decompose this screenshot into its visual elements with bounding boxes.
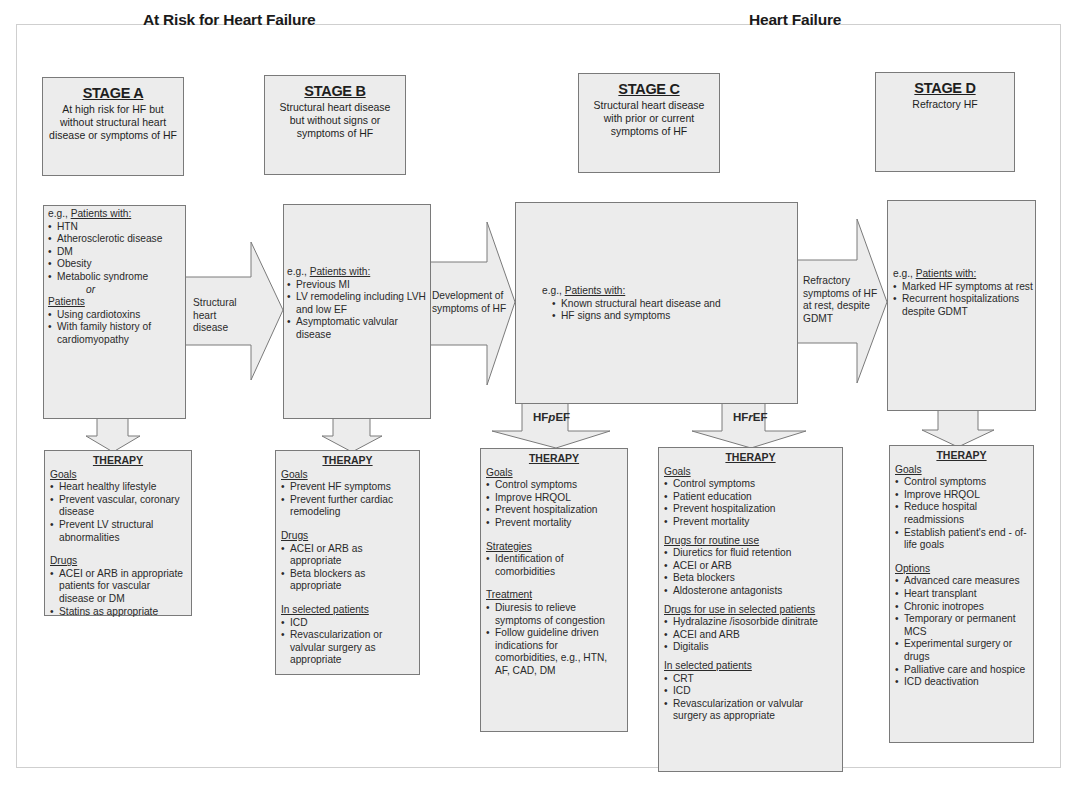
list-item: Heart healthy lifestyle bbox=[50, 481, 186, 494]
list-item: Statins as appropriate bbox=[50, 606, 186, 619]
eg-prefix: e.g., bbox=[287, 266, 310, 277]
list-item: Reduce hospital readmissions bbox=[895, 501, 1028, 526]
stage-d-title: STAGE D bbox=[876, 80, 1014, 97]
list-item: Diuretics for fluid retention bbox=[664, 547, 837, 560]
stage-d-box: STAGE D Refractory HF bbox=[875, 72, 1015, 172]
group-title-at-risk: At Risk for Heart Failure bbox=[143, 11, 315, 29]
list-item: Prevent further cardiac remodeling bbox=[281, 494, 414, 519]
list-item: Patient education bbox=[664, 491, 837, 504]
strategies-label: Strategies bbox=[486, 541, 622, 554]
hfref-label: HFrEF bbox=[733, 411, 768, 423]
list-item: With family history of cardiomyopathy bbox=[48, 321, 186, 346]
stage-c-title: STAGE C bbox=[579, 81, 719, 98]
therapy-title: THERAPY bbox=[895, 449, 1028, 462]
selected-patients-label: In selected patients bbox=[281, 604, 414, 617]
stage-d-description: Refractory HF bbox=[876, 98, 1014, 111]
hfpef-label: HFpEF bbox=[533, 411, 570, 423]
list-item: Aldosterone antagonists bbox=[664, 585, 837, 598]
list-item: Prevent LV structural abnormalities bbox=[50, 519, 186, 544]
drugs-label: Drugs bbox=[281, 530, 414, 543]
stage-b-description: Structural heart disease but without sig… bbox=[265, 101, 405, 140]
list-item: Beta blockers as appropriate bbox=[281, 568, 414, 593]
eg-prefix: e.g., bbox=[893, 268, 916, 279]
transition-label-c-d: Refractory symptoms of HF at rest, despi… bbox=[803, 275, 883, 325]
list-item: ICD deactivation bbox=[895, 676, 1028, 689]
list-item: Heart transplant bbox=[895, 588, 1028, 601]
list-item: CRT bbox=[664, 673, 837, 686]
list-item: ICD bbox=[664, 685, 837, 698]
therapy-box-hfref: THERAPY Goals Control symptoms Patient e… bbox=[658, 447, 843, 772]
therapy-title: THERAPY bbox=[50, 454, 186, 467]
list-item: Identification of comorbidities bbox=[486, 553, 622, 578]
routine-drugs-label: Drugs for routine use bbox=[664, 535, 837, 548]
list-item: Advanced care measures bbox=[895, 575, 1028, 588]
stage-c-patients: e.g., Patients with: Known structural he… bbox=[542, 285, 792, 323]
list-item: Obesity bbox=[48, 258, 186, 271]
hfref-pre: HF bbox=[733, 411, 748, 423]
list-item: Prevent vascular, coronary disease bbox=[50, 494, 186, 519]
list-item: Previous MI bbox=[287, 279, 429, 292]
list-item: ACEI or ARB in appropriate patients for … bbox=[50, 568, 186, 606]
or-label: or bbox=[48, 284, 186, 297]
list-item: Prevent hospitalization bbox=[486, 504, 622, 517]
list-item: ICD bbox=[281, 617, 414, 630]
goals-label: Goals bbox=[50, 469, 186, 482]
arrow-hfref-down bbox=[692, 402, 806, 448]
drugs-label: Drugs bbox=[50, 555, 186, 568]
patients-heading: Patients with: bbox=[916, 268, 977, 279]
stage-a-title: STAGE A bbox=[43, 85, 183, 102]
list-item: Hydralazine /isosorbide dinitrate bbox=[664, 616, 837, 629]
list-item: Experimental surgery or drugs bbox=[895, 638, 1028, 663]
list-item: ACEI and ARB bbox=[664, 629, 837, 642]
list-item: Metabolic syndrome bbox=[48, 271, 186, 284]
options-label: Options bbox=[895, 563, 1028, 576]
arrow-hfpef-down bbox=[492, 402, 610, 448]
hfref-post: EF bbox=[753, 411, 768, 423]
selected-drugs-label: Drugs for use in selected patients bbox=[664, 604, 837, 617]
goals-label: Goals bbox=[895, 464, 1028, 477]
list-item: Prevent HF symptoms bbox=[281, 481, 414, 494]
list-item: Establish patient's end - of-life goals bbox=[895, 527, 1028, 552]
therapy-title: THERAPY bbox=[486, 452, 622, 465]
list-item: HF signs and symptoms bbox=[552, 310, 792, 323]
therapy-box-stage-d: THERAPY Goals Control symptoms Improve H… bbox=[889, 445, 1034, 743]
stage-c-description: Structural heart disease with prior or c… bbox=[579, 99, 719, 138]
list-item: Temporary or permanent MCS bbox=[895, 613, 1028, 638]
group-title-heart-failure: Heart Failure bbox=[749, 11, 841, 29]
therapy-title: THERAPY bbox=[664, 451, 837, 464]
list-item: ACEI or ARB bbox=[664, 560, 837, 573]
stage-a-box: STAGE A At high risk for HF but without … bbox=[42, 77, 184, 176]
list-item: Prevent hospitalization bbox=[664, 503, 837, 516]
patients-heading: Patients with: bbox=[310, 266, 371, 277]
arrow-b-down bbox=[322, 418, 382, 452]
list-item: Palliative care and hospice bbox=[895, 664, 1028, 677]
stage-b-patients: e.g., Patients with: Previous MI LV remo… bbox=[287, 266, 429, 342]
stage-a-description: At high risk for HF but without structur… bbox=[43, 103, 183, 142]
goals-label: Goals bbox=[664, 466, 837, 479]
list-item: Control symptoms bbox=[895, 476, 1028, 489]
list-item: Diuresis to relieve symptoms of congesti… bbox=[486, 602, 622, 627]
list-item: LV remodeling including LVH and low EF bbox=[287, 291, 429, 316]
list-item: Known structural heart disease and bbox=[552, 298, 792, 311]
list-item: Atherosclerotic disease bbox=[48, 233, 186, 246]
list-item: Beta blockers bbox=[664, 572, 837, 585]
list-item: Improve HRQOL bbox=[486, 492, 622, 505]
list-item: Digitalis bbox=[664, 641, 837, 654]
list-item: Prevent mortality bbox=[664, 516, 837, 529]
stage-c-box: STAGE C Structural heart disease with pr… bbox=[578, 73, 720, 173]
list-item: Recurrent hospitalizations despite GDMT bbox=[893, 293, 1033, 318]
list-item: Marked HF symptoms at rest bbox=[893, 281, 1033, 294]
list-item: Control symptoms bbox=[664, 478, 837, 491]
list-item: HTN bbox=[48, 221, 186, 234]
transition-label-b-c: Development of symptoms of HF bbox=[432, 290, 514, 315]
list-item: Chronic inotropes bbox=[895, 601, 1028, 614]
list-item: Revascularization or valvular surgery as… bbox=[664, 698, 837, 723]
goals-label: Goals bbox=[281, 469, 414, 482]
therapy-box-stage-a: THERAPY Goals Heart healthy lifestyle Pr… bbox=[44, 450, 192, 616]
goals-label: Goals bbox=[486, 467, 622, 480]
list-item: Improve HRQOL bbox=[895, 489, 1028, 502]
list-item: Using cardiotoxins bbox=[48, 309, 186, 322]
therapy-title: THERAPY bbox=[281, 454, 414, 467]
list-item: DM bbox=[48, 246, 186, 259]
list-item: ACEI or ARB as appropriate bbox=[281, 543, 414, 568]
